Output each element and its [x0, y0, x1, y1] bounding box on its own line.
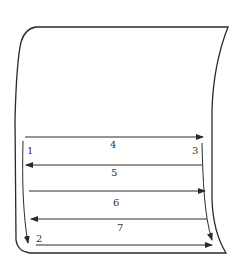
- label-2: 2: [36, 233, 42, 244]
- label-1: 1: [27, 145, 33, 156]
- label-5: 5: [111, 167, 117, 178]
- label-4: 4: [110, 139, 116, 150]
- label-7: 7: [117, 222, 123, 233]
- label-3: 3: [192, 145, 198, 156]
- diagram-canvas: 1 3 4 5 6 7 2: [0, 0, 236, 268]
- label-6: 6: [113, 197, 119, 208]
- arrow-1-down: [23, 141, 28, 243]
